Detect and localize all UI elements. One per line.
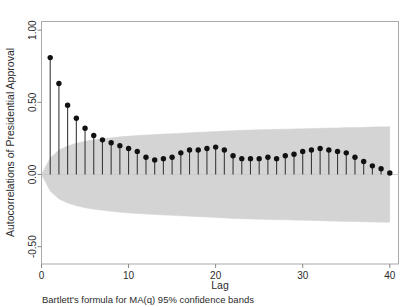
acf-marker: [344, 150, 349, 155]
acf-marker: [65, 103, 70, 108]
y-tick-label: 0.00: [27, 164, 38, 184]
acf-marker: [387, 170, 392, 175]
acf-chart-svg: 1.000.500.00-0.50 010203040 Autocorrelat…: [0, 0, 413, 307]
y-axis-title-group: Autocorrelations of Presidential Approva…: [4, 48, 16, 237]
y-axis-title: Autocorrelations of Presidential Approva…: [4, 48, 16, 237]
acf-marker: [169, 154, 174, 159]
caption-group: Bartlett's formula for MA(q) 95% confide…: [42, 294, 254, 305]
acf-marker: [361, 159, 366, 164]
acf-marker: [213, 144, 218, 149]
x-axis-title-group: Lag: [211, 279, 229, 291]
acf-marker: [135, 149, 140, 154]
acf-marker: [256, 156, 261, 161]
acf-marker: [283, 153, 288, 158]
acf-marker: [317, 146, 322, 151]
acf-marker: [248, 156, 253, 161]
acf-marker: [352, 154, 357, 159]
y-tick-label: 1.00: [27, 20, 38, 40]
y-tick-label: -0.50: [27, 235, 38, 258]
x-tick-label: 0: [39, 270, 45, 281]
acf-marker: [265, 154, 270, 159]
acf-marker: [300, 149, 305, 154]
acf-marker: [161, 156, 166, 161]
acf-marker: [48, 55, 53, 60]
x-tick-label: 10: [123, 270, 135, 281]
acf-marker: [291, 152, 296, 157]
acf-marker: [126, 146, 131, 151]
acf-marker: [370, 163, 375, 168]
acf-marker: [239, 156, 244, 161]
x-tick-label: 40: [384, 270, 396, 281]
acf-marker: [74, 116, 79, 121]
acf-marker: [326, 147, 331, 152]
acf-marker: [152, 157, 157, 162]
acf-marker: [335, 149, 340, 154]
acf-marker: [108, 140, 113, 145]
chart-caption: Bartlett's formula for MA(q) 95% confide…: [42, 294, 254, 305]
acf-marker: [309, 147, 314, 152]
acf-marker: [82, 126, 87, 131]
x-tick-label: 30: [297, 270, 309, 281]
acf-marker: [143, 154, 148, 159]
acf-marker: [56, 81, 61, 86]
acf-marker: [117, 143, 122, 148]
y-tick-label: 0.50: [27, 92, 38, 112]
acf-marker: [204, 146, 209, 151]
acf-marker: [196, 147, 201, 152]
acf-marker: [230, 153, 235, 158]
acf-marker: [378, 166, 383, 171]
acf-marker: [187, 147, 192, 152]
x-axis-title: Lag: [211, 279, 229, 291]
acf-marker: [274, 156, 279, 161]
acf-marker: [91, 133, 96, 138]
acf-marker: [222, 147, 227, 152]
acf-chart-figure: 1.000.500.00-0.50 010203040 Autocorrelat…: [0, 0, 413, 307]
acf-marker: [100, 137, 105, 142]
acf-marker: [178, 150, 183, 155]
